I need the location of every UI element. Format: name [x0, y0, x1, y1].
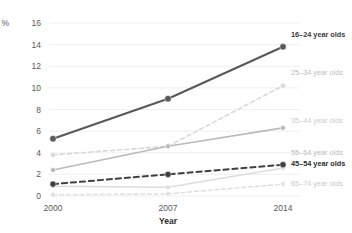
y-tick-label: 14	[32, 40, 42, 50]
data-point-marker	[165, 171, 171, 177]
x-axis-title-text: Year	[159, 216, 178, 226]
y-axis-unit-text: %	[1, 18, 9, 28]
y-axis-unit-label: %	[1, 18, 9, 28]
series-line	[53, 47, 283, 139]
data-point-marker	[166, 192, 171, 197]
y-tick-label: 0	[36, 191, 41, 201]
x-axis-tick-labels: 200020072014	[44, 203, 293, 213]
y-tick-label: 10	[32, 83, 42, 93]
legend-label: 16–24 year olds	[291, 30, 345, 39]
data-point-marker	[51, 193, 56, 198]
line-chart: 0246810121416 % 200020072014 Year 16–24 …	[0, 0, 352, 233]
x-axis-title: Year	[159, 216, 178, 226]
data-point-marker	[51, 168, 56, 173]
data-point-marker	[50, 135, 57, 142]
legend-label: 25–34 year olds	[291, 68, 343, 77]
data-point-marker	[165, 95, 172, 102]
y-tick-label: 6	[36, 126, 41, 136]
y-tick-label: 4	[36, 148, 41, 158]
data-point-marker	[166, 185, 171, 190]
data-point-marker	[51, 152, 56, 157]
gridlines	[49, 23, 300, 196]
y-tick-label: 12	[32, 61, 42, 71]
legend: 16–24 year olds25–34 year olds35–44 year…	[291, 30, 345, 188]
x-tick-label: 2000	[44, 203, 63, 213]
legend-label: 35–44 year olds	[291, 116, 343, 125]
legend-label: 45–54 year olds	[291, 159, 345, 168]
data-point-marker	[281, 83, 286, 88]
data-point-marker	[281, 182, 286, 187]
chart-svg: 0246810121416 % 200020072014 Year 16–24 …	[0, 0, 352, 233]
y-tick-label: 16	[32, 18, 42, 28]
x-tick-label: 2007	[159, 203, 178, 213]
legend-label: 55–64 year olds	[291, 148, 343, 157]
y-axis-tick-labels: 0246810121416	[32, 18, 42, 201]
x-tick-label: 2014	[274, 203, 293, 213]
data-point-marker	[280, 44, 287, 51]
data-point-marker	[281, 125, 286, 130]
y-tick-label: 2	[36, 169, 41, 179]
y-tick-label: 8	[36, 105, 41, 115]
data-point-marker	[166, 144, 171, 149]
legend-label: 65–74 year olds	[291, 179, 343, 188]
data-point-marker	[50, 181, 56, 187]
data-point-marker	[280, 162, 286, 168]
